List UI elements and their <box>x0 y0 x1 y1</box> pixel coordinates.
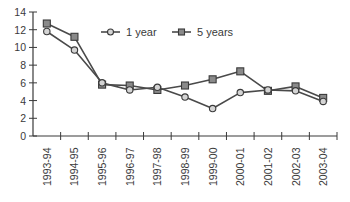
circle-marker-icon <box>209 105 215 111</box>
y-tick-label: 6 <box>20 77 26 89</box>
circle-marker-icon <box>265 87 271 93</box>
x-tick-label: 2003-04 <box>317 147 329 186</box>
line-chart: 02468101214 1993-941994-951995-961996-97… <box>0 0 350 202</box>
series-1-year <box>44 28 327 111</box>
square-marker-icon <box>43 20 50 27</box>
circle-marker-icon <box>99 80 105 86</box>
y-tick-label: 12 <box>14 24 26 36</box>
x-tick-label: 2000-01 <box>234 147 246 186</box>
x-tick-label: 1999-00 <box>207 147 219 186</box>
legend: 1 year 5 years <box>101 26 234 38</box>
y-tick-label: 14 <box>14 6 26 18</box>
y-tick-label: 0 <box>20 130 26 142</box>
circle-marker-icon <box>292 88 298 94</box>
square-marker-icon <box>182 82 189 89</box>
circle-marker-icon <box>182 94 188 100</box>
circle-marker-icon <box>320 98 326 104</box>
circle-marker-icon <box>108 29 114 35</box>
x-tick-label: 1996-97 <box>124 147 136 186</box>
circle-marker-icon <box>71 47 77 53</box>
x-tick-label: 1994-95 <box>68 147 80 186</box>
y-tick-label: 4 <box>20 95 26 107</box>
circle-marker-icon <box>237 89 243 95</box>
square-marker-icon <box>179 29 185 35</box>
legend-label-1-year: 1 year <box>126 26 157 38</box>
x-tick-label: 1995-96 <box>96 147 108 186</box>
square-marker-icon <box>237 68 244 75</box>
circle-marker-icon <box>154 84 160 90</box>
square-marker-icon <box>71 33 78 40</box>
circle-marker-icon <box>44 28 50 34</box>
y-tick-label: 10 <box>14 41 26 53</box>
square-marker-icon <box>209 76 216 83</box>
y-axis: 02468101214 <box>14 6 37 142</box>
circle-marker-icon <box>127 87 133 93</box>
x-tick-label: 2002-03 <box>290 147 302 186</box>
y-tick-label: 2 <box>20 112 26 124</box>
y-tick-label: 8 <box>20 59 26 71</box>
x-tick-label: 1998-99 <box>179 147 191 186</box>
legend-item-5-years: 5 years <box>172 26 234 38</box>
x-axis: 1993-941994-951995-961996-971997-981998-… <box>33 132 337 186</box>
legend-label-5-years: 5 years <box>197 26 234 38</box>
legend-item-1-year: 1 year <box>101 26 157 38</box>
x-tick-label: 1997-98 <box>151 147 163 186</box>
x-tick-label: 2001-02 <box>262 147 274 186</box>
x-tick-label: 1993-94 <box>41 147 53 186</box>
